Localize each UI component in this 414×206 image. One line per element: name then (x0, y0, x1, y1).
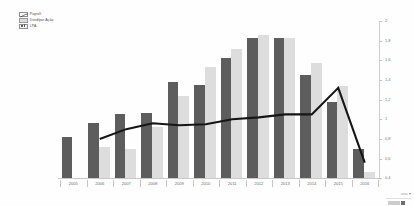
x-axis-separator (246, 180, 247, 187)
y-axis-tick-label: 1,4 (385, 78, 391, 82)
y-axis-tick-label: 1,6 (385, 58, 391, 62)
legend-item-lpa[interactable]: LPA (19, 23, 53, 28)
x-axis-separator (325, 180, 326, 187)
y-axis-tick (379, 119, 382, 120)
x-axis-tick-label: 2012 (254, 181, 263, 186)
x-axis-separator (299, 180, 300, 187)
chart-legend: Payroll Divid/por Ação LPA (19, 12, 53, 29)
x-axis-separator (272, 180, 273, 187)
legend-item-payroll[interactable]: Payroll (19, 12, 53, 17)
x-axis-separator (140, 180, 141, 187)
footer-strip-bar (388, 201, 400, 204)
y-axis-tick-label: 0,8 (385, 137, 391, 141)
legend-label-payroll: Payroll (30, 12, 41, 17)
x-axis-tick-label: 2006 (95, 181, 104, 186)
legend-label-dividend: Divid/por Ação (30, 18, 54, 23)
legend-item-dividend[interactable]: Divid/por Ação (19, 17, 53, 22)
x-axis-separator (352, 180, 353, 187)
y-axis-tick (379, 21, 382, 22)
chart-container: Payroll Divid/por Ação LPA 21,81,61,41,2… (0, 0, 414, 206)
x-axis-separator (60, 180, 61, 187)
area-toggle[interactable]: area (401, 192, 411, 196)
footer-strip-handle[interactable] (401, 201, 405, 205)
x-axis-separator (193, 180, 194, 187)
y-axis-tick-label: 0,6 (385, 157, 391, 161)
y-axis-tick-label: 0,4 (385, 176, 391, 180)
chevron-down-icon (409, 193, 411, 195)
legend-label-lpa: LPA (30, 24, 37, 29)
y-axis-tick-label: 2 (385, 19, 387, 23)
x-axis-separator (166, 180, 167, 187)
footer-scroll-strip[interactable] (388, 201, 405, 205)
x-axis-tick-label: 2011 (228, 181, 237, 186)
x-axis-tick-label: 2016 (360, 181, 369, 186)
area-toggle-label: area (401, 192, 408, 196)
x-axis-separator (87, 180, 88, 187)
x-axis-tick-label: 2013 (281, 181, 290, 186)
x-axis-tick-label: 2008 (148, 181, 157, 186)
x-axis-tick-label: 2009 (175, 181, 184, 186)
plot-area (60, 20, 378, 178)
x-axis-tick-label: 2014 (307, 181, 316, 186)
y-axis-tick (379, 41, 382, 42)
y-axis-tick (379, 100, 382, 101)
x-axis-separator (219, 180, 220, 187)
light-bar-series-icon (19, 18, 28, 23)
payroll-line-series (60, 20, 378, 178)
footer-divider (386, 198, 411, 199)
x-axis-baseline (58, 178, 380, 179)
y-axis-tick (379, 80, 382, 81)
y-axis-tick (379, 178, 382, 179)
y-axis-tick (379, 60, 382, 61)
y-axis-tick-label: 1 (385, 117, 387, 121)
y-axis-tick-label: 1,8 (385, 39, 391, 43)
x-axis-separator (113, 180, 114, 187)
x-axis-separator (378, 180, 379, 187)
x-axis-tick-label: 2007 (122, 181, 131, 186)
x-axis-tick-label: 2005 (69, 181, 78, 186)
x-axis-tick-label: 2015 (334, 181, 343, 186)
dark-bar-series-icon (19, 24, 28, 29)
y-axis-tick (379, 159, 382, 160)
x-axis-tick-label: 2010 (201, 181, 210, 186)
y-axis-tick-label: 1,2 (385, 98, 391, 102)
y-axis-tick (379, 139, 382, 140)
line-series-icon (19, 12, 28, 17)
